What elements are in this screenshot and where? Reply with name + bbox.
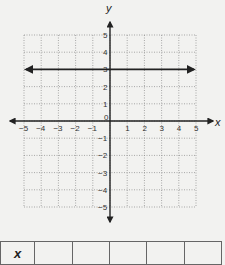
value-table: x [0,241,222,265]
y-tick-label: 2 [103,83,108,92]
table-cell[interactable] [35,242,72,265]
table-cell[interactable] [184,242,221,265]
table-header-x: x [1,242,35,265]
x-tick-label: 3 [160,124,165,133]
y-tick-label: 1 [103,100,108,109]
x-tick-label: −1 [88,124,98,133]
y-tick-label: −4 [98,186,108,195]
coordinate-plane: −5−4−3−2−101234554321−1−2−3−4−5 y x [0,0,225,232]
x-tick-label: −5 [19,124,29,133]
x-tick-label: −3 [53,124,63,133]
x-tick-label: 2 [142,124,147,133]
y-axis-label: y [105,2,113,14]
x-tick-label: −2 [71,124,81,133]
table-cell[interactable] [109,242,146,265]
table-cell[interactable] [72,242,109,265]
table-cell[interactable] [147,242,184,265]
x-tick-label: 5 [194,124,199,133]
y-tick-label: −1 [98,134,108,143]
y-tick-label: 5 [103,31,108,40]
y-tick-label: −2 [98,151,108,160]
y-tick-label: −5 [98,203,108,212]
table-row: x [1,242,222,265]
y-tick-label: −3 [98,169,108,178]
x-tick-label: 1 [125,124,130,133]
x-tick-label: 0 [104,113,109,122]
y-tick-label: 4 [103,48,108,57]
x-tick-label: −4 [36,124,46,133]
x-tick-label: 4 [177,124,182,133]
x-axis-label: x [214,116,221,128]
